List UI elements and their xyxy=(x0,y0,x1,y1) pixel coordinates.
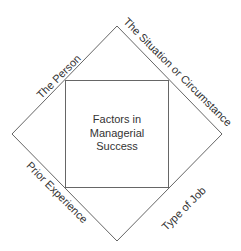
factors-diagram: Factors in Managerial Success The Person… xyxy=(0,0,241,251)
center-line-3: Success xyxy=(66,140,168,154)
center-line-2: Managerial xyxy=(66,127,168,141)
center-label: Factors in Managerial Success xyxy=(66,113,168,154)
center-line-1: Factors in xyxy=(66,113,168,127)
